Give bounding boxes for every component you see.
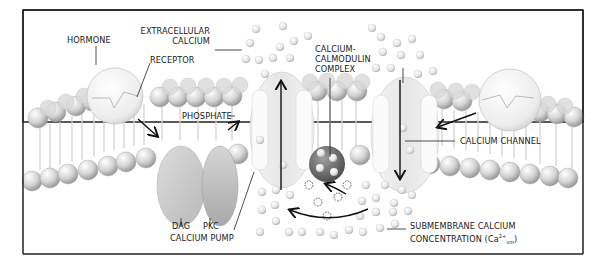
label-dag: DAG — [172, 222, 190, 232]
ca-subscript: sm — [506, 239, 514, 245]
hormone-receptor-right — [479, 69, 541, 131]
label-submembrane-close: ) — [514, 234, 517, 244]
calcium-calmodulin-complex — [309, 146, 345, 182]
label-submembrane-1: SUBMEMBRANE CALCIUM — [410, 222, 516, 232]
label-calcium-channel: CALCIUM CHANNEL — [460, 137, 541, 147]
label-submembrane-2: CONCENTRATION (Ca2+sm) — [410, 232, 517, 248]
label-pkc: PKC — [203, 222, 219, 232]
hormone-receptor-left — [87, 68, 143, 124]
label-submembrane-2-text: CONCENTRATION (Ca — [410, 234, 499, 244]
label-phosphate: PHOSPHATE — [182, 112, 232, 122]
label-calmodulin-3: COMPLEX — [315, 65, 355, 75]
pkc-protein — [202, 146, 238, 226]
dag-protein — [157, 146, 205, 226]
calcium-channel — [371, 77, 439, 193]
label-receptor: RECEPTOR — [150, 56, 195, 66]
unbound-calcium-sites — [305, 181, 351, 220]
label-calcium-pump: CALCIUM PUMP — [170, 234, 234, 244]
label-extracellular-calcium-2: CALCIUM — [140, 37, 210, 47]
label-hormone: HORMONE — [67, 36, 111, 46]
calcium-pump — [250, 72, 314, 188]
